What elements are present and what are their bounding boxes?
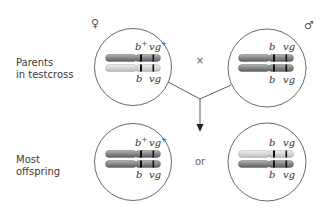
male-symbol-icon: ♂	[304, 19, 314, 32]
female-symbol-icon: ♀	[91, 17, 99, 30]
chromosome-light	[239, 151, 294, 158]
gene-label-vg: vg	[283, 137, 295, 148]
or-label: or	[195, 156, 206, 167]
gene-label-vg: vg	[283, 169, 295, 180]
chromosome-dark	[106, 55, 161, 62]
chromosome-light	[106, 65, 161, 72]
chromosome-dark	[239, 65, 294, 72]
cross-symbol: ×	[196, 55, 204, 66]
gene-label-vg: vg	[283, 41, 295, 52]
testcross-diagram: ♀ ♂ × or b+ vg+ b vg b vg b vg b+ vg+ b	[0, 0, 321, 210]
gene-label-b: b	[269, 137, 275, 148]
gene-label-b: b	[269, 41, 275, 52]
cell-offspring-wildtype: b+ vg+ b vg	[95, 124, 172, 201]
gene-label-b: b	[269, 169, 275, 180]
gene-label-b: b	[269, 74, 275, 85]
cell-female-parent: b+ vg+ b vg	[95, 29, 172, 106]
gene-label-b: b	[136, 169, 142, 180]
chromosome-dark	[106, 151, 161, 158]
chromosome-dark	[239, 161, 294, 168]
gene-label-vg: vg	[283, 74, 295, 85]
cell-offspring-mutant: b vg b vg	[228, 123, 306, 201]
arrow-down-icon	[197, 124, 204, 132]
gene-label-vg: vg	[149, 73, 161, 84]
cross-connector	[168, 82, 231, 126]
chromosome-dark	[239, 55, 294, 62]
gene-label-vg: vg	[149, 169, 161, 180]
cell-male-parent: b vg b vg	[228, 29, 306, 107]
chromosome-dark	[106, 161, 161, 168]
gene-label-b: b	[136, 73, 142, 84]
